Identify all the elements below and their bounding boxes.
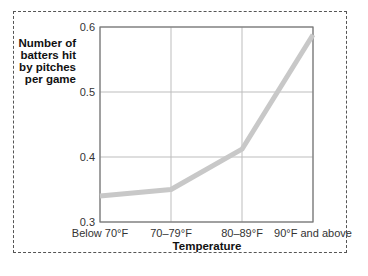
line-chart: 0.30.40.50.6Below 70°F70–79°F80–89°F90°F… xyxy=(0,0,368,276)
x-tick-label: 80–89°F xyxy=(221,227,263,239)
y-tick-label: 0.5 xyxy=(80,86,95,98)
x-tick-label: Below 70°F xyxy=(72,227,129,239)
x-axis-label: Temperature xyxy=(100,240,314,252)
x-tick-label: 90°F and above xyxy=(274,227,352,239)
x-tick-label: 70–79°F xyxy=(150,227,192,239)
y-tick-label: 0.4 xyxy=(80,151,95,163)
y-tick-label: 0.6 xyxy=(80,21,95,33)
data-line xyxy=(100,35,313,196)
